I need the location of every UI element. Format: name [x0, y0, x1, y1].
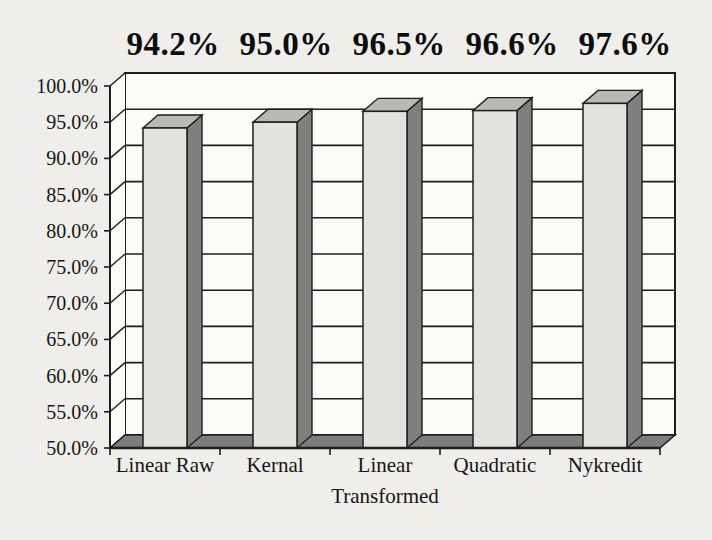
y-axis-tick-label: 50.0% [46, 437, 98, 459]
category-label-quadratic: Quadratic [454, 453, 537, 477]
bar-front-face-linear-raw [143, 128, 187, 448]
x-axis-title: Transformed [331, 484, 439, 508]
bar-front-face-quadratic [473, 111, 517, 448]
bar-side-face-linear [407, 98, 422, 448]
y-axis-tick-label: 75.0% [46, 256, 98, 278]
y-axis-tick-label: 80.0% [46, 220, 98, 242]
bar-side-face-kernal [297, 109, 312, 448]
bar-chart-3d: 50.0%55.0%60.0%65.0%70.0%75.0%80.0%85.0%… [0, 0, 712, 540]
y-axis-tick-label: 60.0% [46, 365, 98, 387]
bar-side-face-linear-raw [187, 115, 202, 448]
bar-front-face-nykredit [583, 103, 627, 448]
y-axis-tick-label: 65.0% [46, 328, 98, 350]
y-axis-tick-label: 100.0% [36, 75, 98, 97]
category-label-kernal: Kernal [246, 453, 303, 477]
category-label-linear-raw: Linear Raw [116, 453, 215, 477]
bar-side-face-nykredit [627, 90, 642, 448]
y-axis-tick-label: 55.0% [46, 401, 98, 423]
bar-front-face-linear [363, 111, 407, 448]
chart-canvas: 94.2% 95.0% 96.5% 96.6% 97.6% 50.0%55.0%… [0, 0, 712, 540]
y-axis-tick-label: 95.0% [46, 111, 98, 133]
bar-front-face-kernal [253, 122, 297, 448]
category-label-linear: Linear [358, 453, 413, 477]
category-label-nykredit: Nykredit [568, 453, 643, 477]
y-axis-tick-label: 85.0% [46, 184, 98, 206]
y-axis-tick-label: 90.0% [46, 147, 98, 169]
y-axis-tick-label: 70.0% [46, 292, 98, 314]
bar-side-face-quadratic [517, 98, 532, 448]
